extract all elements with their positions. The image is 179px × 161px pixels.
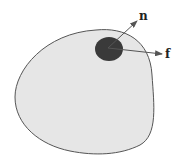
body-shape xyxy=(15,30,154,154)
diagram-canvas: n f xyxy=(0,0,179,161)
force-label: f xyxy=(165,47,171,61)
normal-label: n xyxy=(139,9,148,23)
body-diagram: n f xyxy=(0,0,179,161)
